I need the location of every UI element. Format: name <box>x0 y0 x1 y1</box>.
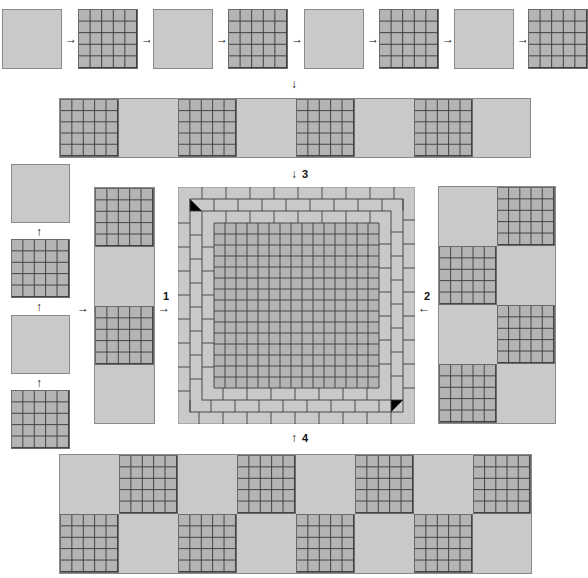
top-tile-8-grid <box>528 9 588 69</box>
bottom-tile-grid <box>296 514 355 573</box>
strip-tile-grid <box>414 99 473 157</box>
top-tile-1-plain <box>2 9 62 69</box>
top-tile-5-plain <box>304 9 364 69</box>
bottom-tile-grid <box>355 455 414 514</box>
bottom-tile-plain <box>119 514 178 573</box>
vstrip-tile-grid <box>95 188 154 247</box>
arrow-up-icon: ↑ <box>36 301 42 313</box>
arrow-right-icon: → <box>158 302 170 314</box>
strip-tile-plain <box>237 99 296 157</box>
horizontal-strip <box>59 98 531 158</box>
top-tile-2-grid <box>78 9 138 69</box>
right-tile-grid <box>439 364 497 423</box>
arrow-down-icon: ↓ <box>291 78 297 90</box>
right-tile-plain <box>439 187 497 246</box>
arrow-right-icon: → <box>442 33 454 45</box>
framed-square-pattern <box>178 187 415 424</box>
strip-tile-plain <box>119 99 178 157</box>
step-3-label: 3 <box>302 168 308 180</box>
center-framed-square <box>178 187 415 424</box>
arrow-right-icon: → <box>141 33 153 45</box>
arrow-right-icon: → <box>77 302 89 314</box>
strip-tile-grid <box>178 99 237 157</box>
top-tile-7-plain <box>454 9 514 69</box>
bottom-tile-plain <box>414 455 473 514</box>
left-tile-2-grid <box>11 239 70 298</box>
vstrip-tile-plain <box>95 365 154 423</box>
right-tile-plain <box>497 246 555 305</box>
arrow-up-icon: ↑ <box>36 226 42 238</box>
bottom-tile-grid <box>414 514 473 573</box>
bottom-tile-grid <box>237 455 296 514</box>
bottom-tile-grid <box>60 514 119 573</box>
vertical-strip <box>94 187 155 424</box>
bottom-tile-plain <box>355 514 414 573</box>
left-tile-1-plain <box>11 164 70 223</box>
arrow-left-icon: ← <box>418 302 430 314</box>
bottom-block <box>59 454 532 574</box>
right-tile-plain <box>497 364 555 423</box>
right-tile-grid <box>497 305 555 364</box>
right-tile-plain <box>439 305 497 364</box>
right-tile-grid <box>439 246 497 305</box>
bottom-tile-plain <box>178 455 237 514</box>
bottom-tile-plain <box>237 514 296 573</box>
arrow-right-icon: → <box>291 33 303 45</box>
bottom-tile-grid <box>473 455 531 514</box>
bottom-tile-plain <box>60 455 119 514</box>
arrow-up-icon: ↑ <box>291 432 297 444</box>
bottom-tile-grid <box>119 455 178 514</box>
vstrip-tile-plain <box>95 247 154 306</box>
strip-tile-plain <box>473 99 530 157</box>
arrow-down-icon: ↓ <box>291 168 297 180</box>
strip-tile-plain <box>355 99 414 157</box>
step-4-label: 4 <box>302 432 308 444</box>
bottom-tile-plain <box>473 514 531 573</box>
right-block <box>438 186 556 424</box>
strip-tile-grid <box>296 99 355 157</box>
right-tile-grid <box>497 187 555 246</box>
arrow-right-icon: → <box>216 33 228 45</box>
arrow-right-icon: → <box>65 33 77 45</box>
top-tile-4-grid <box>228 9 288 69</box>
arrow-right-icon: → <box>367 33 379 45</box>
top-tile-3-plain <box>153 9 213 69</box>
strip-tile-grid <box>60 99 119 157</box>
bottom-tile-plain <box>296 455 355 514</box>
vstrip-tile-grid <box>95 306 154 365</box>
arrow-up-icon: ↑ <box>36 377 42 389</box>
bottom-tile-grid <box>178 514 237 573</box>
top-tile-6-grid <box>379 9 439 69</box>
left-tile-4-grid <box>11 390 70 449</box>
left-tile-3-plain <box>11 315 70 374</box>
